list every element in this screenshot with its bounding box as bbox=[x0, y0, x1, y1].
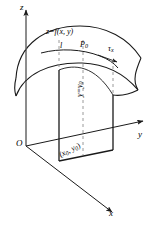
plane-equation-label: y=y0 bbox=[76, 81, 84, 97]
x-axis bbox=[26, 146, 112, 212]
point-label-p0: P0 bbox=[80, 41, 88, 49]
axis-label-z: z bbox=[20, 3, 24, 12]
plane-equation-subscript: 0 bbox=[78, 81, 84, 84]
plane-top-edge bbox=[59, 67, 113, 95]
surface-right-skirt bbox=[113, 90, 138, 95]
surface-equation-label: z=f(x, y) bbox=[46, 28, 73, 36]
figure-canvas: z y x O z=f(x, y) l P0 τx y=y0 (x0, y0) bbox=[0, 0, 153, 227]
point-label-subscript: 0 bbox=[85, 43, 88, 49]
diagram-svg bbox=[0, 0, 153, 227]
origin-label: O bbox=[16, 139, 23, 148]
axis-label-y: y bbox=[138, 130, 142, 139]
intersection-curve-l bbox=[41, 50, 118, 68]
tangent-subscript: x bbox=[111, 47, 114, 53]
surface-top-edge bbox=[16, 26, 141, 78]
curve-label-l: l bbox=[60, 42, 62, 50]
axis-label-x: x bbox=[109, 209, 113, 218]
tangent-vector-label: τx bbox=[108, 45, 114, 53]
tangent-arrow bbox=[98, 55, 117, 62]
y-axis bbox=[26, 121, 143, 146]
surface-left-cap bbox=[15, 78, 17, 96]
surface-right-cap bbox=[135, 58, 141, 90]
curve-l-path bbox=[41, 50, 118, 68]
plane-equation-base: y=y bbox=[75, 85, 84, 98]
